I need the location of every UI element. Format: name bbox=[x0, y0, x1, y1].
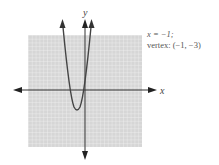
y-axis-label: y bbox=[82, 7, 88, 18]
x-axis-left-arrow-icon bbox=[13, 87, 22, 93]
y-axis-down-arrow-icon bbox=[82, 151, 88, 160]
annotation-axis-of-symmetry: x = −1; bbox=[147, 29, 174, 39]
y-axis-up-arrow-icon bbox=[82, 19, 88, 28]
graph-canvas: x y bbox=[0, 0, 219, 165]
curve-right-arrow-icon bbox=[89, 19, 95, 28]
annotation-vertex: vertex: (−1, −3) bbox=[147, 40, 201, 50]
x-axis-label: x bbox=[159, 85, 165, 96]
x-axis-right-arrow-icon bbox=[148, 87, 157, 93]
curve-left-arrow-icon bbox=[60, 19, 66, 28]
